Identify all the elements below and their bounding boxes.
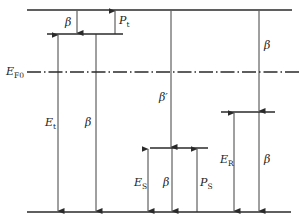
- es-label: ES: [133, 176, 147, 191]
- energy-level-diagram: β Pt EF0 Et β β′ β ER β ES β PS: [0, 0, 299, 215]
- er-label: ER: [219, 153, 234, 168]
- beta-right-top-label: β: [263, 39, 270, 52]
- beta-top-label: β: [64, 16, 71, 29]
- beta-prime-label: β′: [158, 91, 168, 104]
- beta-right-bottom-label: β: [263, 153, 270, 166]
- ps-label: PS: [199, 176, 213, 191]
- et-label: Et: [44, 116, 56, 131]
- fermi-level-label: EF0: [5, 65, 24, 80]
- beta-left-label: β: [84, 116, 91, 129]
- beta-mid-label: β: [162, 176, 169, 189]
- pt-label: Pt: [118, 14, 129, 29]
